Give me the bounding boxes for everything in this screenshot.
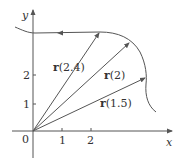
x-axis-label: x (166, 136, 173, 149)
y-tick-label-2: 2 (23, 69, 30, 82)
y-axis-label: y (21, 9, 29, 22)
vector-function-diagram: y x 0 1 2 1 2 r(2.4) r(2) r(1.5) (0, 0, 182, 160)
label-r-2.4: r(2.4) (53, 61, 85, 74)
space-curve (15, 27, 156, 112)
x-tick-label-1: 1 (59, 134, 66, 147)
vector-r-2 (33, 43, 129, 131)
x-tick-label-2: 2 (87, 134, 94, 147)
curve-direction-arrow-icon (57, 31, 63, 36)
y-tick-label-1: 1 (23, 98, 30, 111)
label-r-2: r(2) (104, 69, 125, 82)
label-r-1.5: r(1.5) (100, 97, 132, 110)
vector-r-2.4 (33, 33, 99, 131)
origin-label: 0 (22, 133, 29, 146)
